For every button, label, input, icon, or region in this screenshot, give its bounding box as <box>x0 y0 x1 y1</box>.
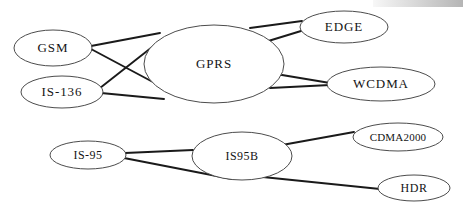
edge-is95b-to-cdma2000 <box>282 132 354 145</box>
node-edge[interactable]: EDGE <box>300 11 388 43</box>
node-gprs[interactable]: GPRS <box>144 25 284 103</box>
node-label-hdr: HDR <box>401 181 428 195</box>
node-layer: GSMIS-136GPRSEDGEWCDMAIS-95IS95BCDMA2000… <box>14 11 450 201</box>
node-label-wcdma: WCDMA <box>353 76 409 91</box>
node-label-edge: EDGE <box>325 19 363 34</box>
node-is95b[interactable]: IS95B <box>192 132 292 180</box>
node-cdma2000[interactable]: CDMA2000 <box>353 123 443 151</box>
edge-gsm-to-gprs <box>91 33 160 46</box>
node-is95[interactable]: IS-95 <box>50 141 126 169</box>
edge-gprs-to-edge <box>250 21 302 28</box>
diagram-canvas: GSMIS-136GPRSEDGEWCDMAIS-95IS95BCDMA2000… <box>0 0 463 220</box>
node-is136[interactable]: IS-136 <box>21 76 103 108</box>
edge-is95b-to-hdr <box>253 176 380 189</box>
node-label-gsm: GSM <box>38 40 69 55</box>
edge-gprs-to-wcdma <box>270 85 330 88</box>
edge-is136-to-gprs <box>101 93 164 99</box>
edge-is95-to-is95b <box>125 150 193 153</box>
node-label-cdma2000: CDMA2000 <box>370 131 427 143</box>
node-label-is136: IS-136 <box>42 84 83 99</box>
node-label-is95b: IS95B <box>225 149 258 163</box>
node-hdr[interactable]: HDR <box>378 175 450 201</box>
node-label-is95: IS-95 <box>73 148 102 162</box>
node-gsm[interactable]: GSM <box>14 30 92 66</box>
node-label-gprs: GPRS <box>196 56 232 71</box>
edge-gprs-to-wcdma <box>276 74 330 83</box>
node-wcdma[interactable]: WCDMA <box>327 67 435 101</box>
network-evolution-diagram: GSMIS-136GPRSEDGEWCDMAIS-95IS95BCDMA2000… <box>0 0 463 220</box>
